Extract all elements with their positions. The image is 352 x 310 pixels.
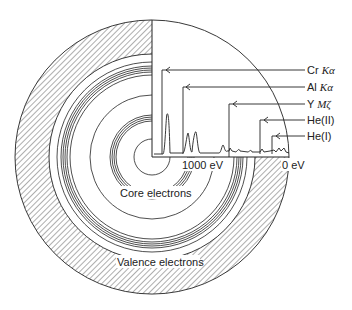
label-he-i: He(I) [307,130,331,142]
core-electrons-label: Core electrons [120,187,192,199]
axis-0ev-label: 0 eV [282,159,305,171]
axis-1000ev-label: 1000 eV [182,159,224,171]
outer-arc [152,20,289,157]
label-he-ii: He(II) [307,114,335,126]
photoemission-diagram: Cr Kα Al Kα Y Mζ He(II) He(I) 1000 eV 0 … [0,0,352,310]
diagram-canvas: Cr Kα Al Kα Y Mζ He(II) He(I) 1000 eV 0 … [0,0,352,310]
valence-electrons-label: Valence electrons [117,256,204,268]
label-al-ka: Al Kα [307,81,333,93]
spectrum-panel [152,20,305,157]
label-cr-ka: Cr Kα [307,64,335,76]
label-y-mz: Y Mζ [307,98,332,111]
